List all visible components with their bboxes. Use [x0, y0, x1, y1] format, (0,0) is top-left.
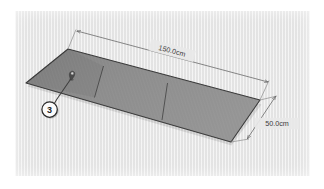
dimension-length-extension-right	[260, 81, 269, 101]
callout-3-badge-label: 3	[47, 105, 52, 115]
technical-drawing-svg: 150.0cm 50.0cm	[0, 0, 324, 189]
dimension-width-label: 50.0cm	[265, 119, 289, 128]
slab-group	[26, 49, 262, 146]
dimension-length-extension-left	[68, 30, 76, 50]
illustration-viewport: 150.0cm 50.0cm	[0, 0, 324, 189]
